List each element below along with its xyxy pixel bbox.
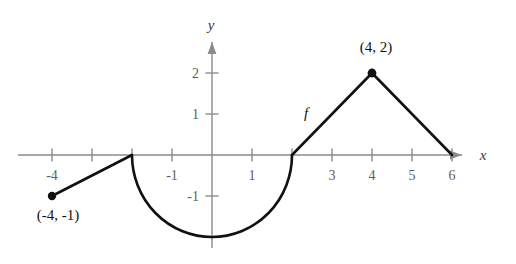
x-axis-label: x [479,147,487,163]
x-tick-label-6: 6 [449,168,456,183]
marked-point-peak [368,69,377,78]
function-graph-svg: -4 -1 1 3 4 5 6 2 1 -1 x y (-4, -1) (4, … [0,0,516,264]
x-tick-label-5: 5 [409,168,416,183]
y-axis-label: y [206,17,215,33]
graph-figure: -4 -1 1 3 4 5 6 2 1 -1 x y (-4, -1) (4, … [0,0,516,264]
function-label: f [304,105,310,121]
x-tick-label-4: 4 [369,168,376,183]
point-label-left: (-4, -1) [37,207,79,224]
x-tick-label--4: -4 [46,168,58,183]
y-tick-label--1: -1 [187,189,199,204]
x-tick-label-1: 1 [249,168,256,183]
x-tick-label--1: -1 [166,168,178,183]
curve-segment-descending-line [372,73,452,155]
y-tick-label-2: 2 [192,66,199,81]
x-tick-label-3: 3 [329,168,336,183]
y-axis-arrowhead [208,42,217,54]
point-label-peak: (4, 2) [360,39,393,56]
y-tick-label-1: 1 [192,107,199,122]
marked-point-left [48,192,56,200]
